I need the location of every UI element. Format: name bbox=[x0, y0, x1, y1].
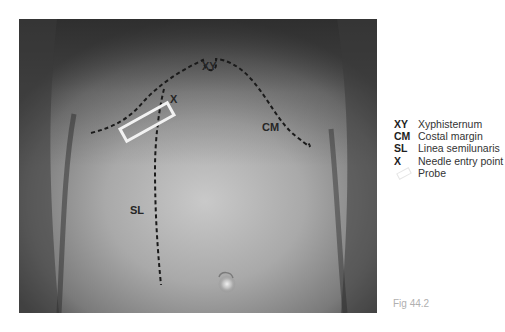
legend-abbr: X bbox=[394, 155, 418, 167]
legend-abbr: SL bbox=[394, 142, 418, 154]
abdomen-photo: XY X CM SL bbox=[19, 19, 377, 313]
figure-caption: Fig 44.2 bbox=[393, 298, 429, 309]
legend: XY Xyphisternum CM Costal margin SL Line… bbox=[394, 118, 503, 179]
legend-label: Linea semilunaris bbox=[418, 142, 500, 154]
legend-item-cm: CM Costal margin bbox=[394, 130, 503, 142]
annotated-photo-svg: XY X CM SL bbox=[19, 19, 377, 313]
legend-label: Xyphisternum bbox=[418, 118, 482, 130]
legend-item-x: X Needle entry point bbox=[394, 155, 503, 167]
legend-label: Costal margin bbox=[418, 130, 483, 142]
legend-abbr: XY bbox=[394, 118, 418, 130]
legend-abbr: CM bbox=[394, 130, 418, 142]
probe-outline-icon bbox=[394, 167, 418, 179]
label-x: X bbox=[170, 93, 178, 105]
label-xy: XY bbox=[202, 60, 217, 72]
legend-item-probe: Probe bbox=[394, 167, 503, 179]
legend-item-xy: XY Xyphisternum bbox=[394, 118, 503, 130]
legend-label: Needle entry point bbox=[418, 155, 503, 167]
legend-label: Probe bbox=[418, 167, 446, 179]
label-cm: CM bbox=[262, 121, 279, 133]
label-sl: SL bbox=[130, 204, 144, 216]
legend-item-sl: SL Linea semilunaris bbox=[394, 142, 503, 154]
